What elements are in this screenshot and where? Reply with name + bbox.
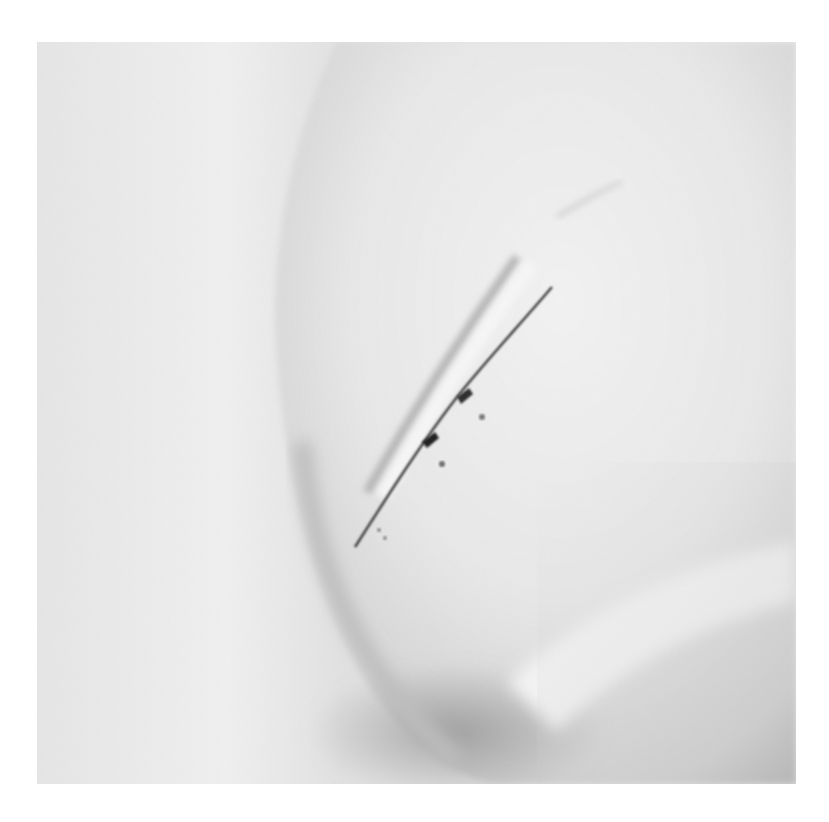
photo-scene [37, 42, 796, 784]
film-grain [37, 42, 796, 784]
photograph: Black-and-white close-up photograph of s… [37, 42, 796, 784]
